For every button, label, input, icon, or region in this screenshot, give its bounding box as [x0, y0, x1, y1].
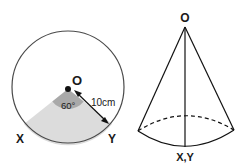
diagram-canvas: O 60° 10cm X Y O X,Y [0, 0, 248, 167]
point-y-label: Y [108, 132, 116, 146]
cone-right-edge [185, 27, 234, 130]
apex-label: O [180, 11, 189, 25]
center-label: O [72, 73, 82, 88]
point-x-label: X [16, 132, 24, 146]
cone-base-front [138, 130, 234, 146]
cone-figure: O X,Y [138, 11, 234, 163]
angle-label: 60° [61, 100, 76, 111]
base-label: X,Y [176, 151, 194, 163]
circle-figure: O 60° 10cm X Y [12, 31, 124, 146]
cone-base-back [138, 116, 234, 131]
cone-left-edge [138, 27, 185, 131]
center-point [65, 86, 71, 92]
radius-label: 10cm [91, 97, 115, 108]
